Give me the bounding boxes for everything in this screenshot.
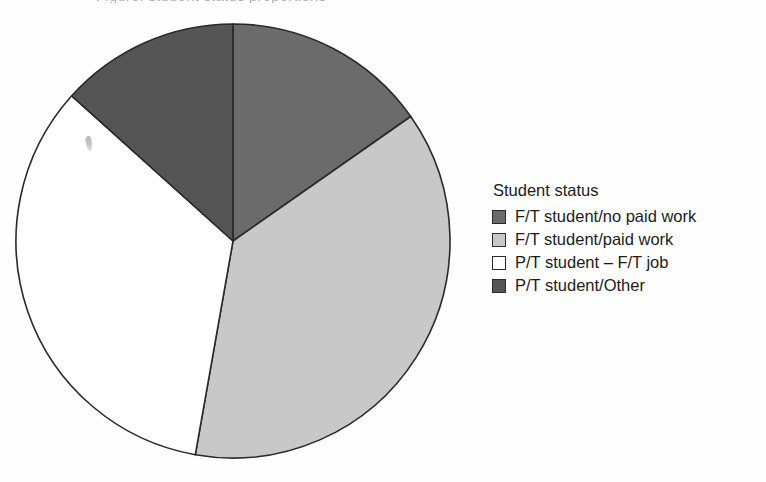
pie-chart-figure: Figure: student status proportions F/T s…	[0, 0, 766, 482]
legend-swatch-ft-student-paid-work	[492, 233, 506, 247]
legend-item-pt-student-other[interactable]: P/T student/Other	[492, 274, 766, 297]
legend-label-ft-student-no-paid-work: F/T student/no paid work	[515, 206, 696, 227]
legend-title: Student status	[493, 179, 766, 201]
legend-swatch-ft-student-no-paid-work	[492, 210, 506, 224]
legend-item-ft-student-no-paid-work[interactable]: F/T student/no paid work	[492, 205, 766, 228]
legend-label-pt-student-other: P/T student/Other	[515, 275, 645, 296]
legend-label-pt-student-ft-job: P/T student – F/T job	[515, 252, 668, 273]
pie-chart-svg: F/T student/no paid workF/T student/paid…	[0, 0, 470, 482]
legend-label-ft-student-paid-work: F/T student/paid work	[515, 229, 673, 250]
pie-slices-group: F/T student/no paid workF/T student/paid…	[16, 24, 450, 458]
pie-chart-area: F/T student/no paid workF/T student/paid…	[0, 0, 470, 482]
legend-swatch-pt-student-other	[492, 279, 506, 293]
legend-item-pt-student-ft-job[interactable]: P/T student – F/T job	[492, 251, 766, 274]
legend: Student status F/T student/no paid work …	[492, 179, 766, 297]
legend-item-ft-student-paid-work[interactable]: F/T student/paid work	[492, 228, 766, 251]
legend-swatch-pt-student-ft-job	[492, 256, 506, 270]
